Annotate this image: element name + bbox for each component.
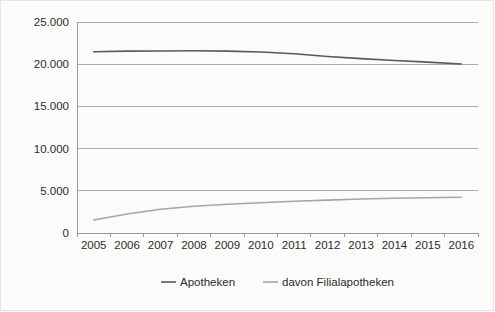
x-tick-label: 2012 (315, 239, 341, 251)
series-line-davon-filialapotheken (94, 197, 462, 220)
chart-container: 05.00010.00015.00020.00025.000 200520062… (0, 0, 495, 312)
y-tick-label: 20.000 (34, 58, 69, 70)
x-tick-label: 2015 (415, 239, 441, 251)
x-tick-label: 2016 (448, 239, 474, 251)
y-axis-tick-labels: 05.00010.00015.00020.00025.000 (34, 16, 69, 239)
x-tick-label: 2009 (215, 239, 241, 251)
plot-area: 05.00010.00015.00020.00025.000 200520062… (0, 0, 495, 312)
x-tick-label: 2005 (81, 239, 107, 251)
x-tick-label: 2011 (282, 239, 307, 251)
y-tick-label: 15.000 (34, 100, 69, 112)
y-tick-label: 25.000 (34, 16, 69, 28)
x-tick-label: 2014 (382, 239, 408, 251)
legend-label-davon-filialapotheken: davon Filialapotheken (282, 276, 394, 288)
x-tick-label: 2008 (181, 239, 207, 251)
x-tick-label: 2013 (348, 239, 374, 251)
x-tick-label: 2010 (248, 239, 274, 251)
x-tick-label: 2006 (114, 239, 140, 251)
y-tick-label: 0 (63, 227, 69, 239)
legend-label-apotheken: Apotheken (180, 276, 235, 288)
x-axis-tick-labels: 2005200620072008200920102011201220132014… (81, 239, 474, 251)
series-line-apotheken (94, 51, 462, 64)
line-chart-svg: 05.00010.00015.00020.00025.000 200520062… (0, 0, 495, 312)
x-tick-label: 2007 (148, 239, 174, 251)
y-tick-label: 10.000 (34, 143, 69, 155)
chart-legend: Apothekendavon Filialapotheken (161, 276, 394, 288)
x-axis-tick-marks (77, 233, 478, 237)
data-series-group (94, 51, 462, 220)
y-tick-label: 5.000 (40, 185, 69, 197)
